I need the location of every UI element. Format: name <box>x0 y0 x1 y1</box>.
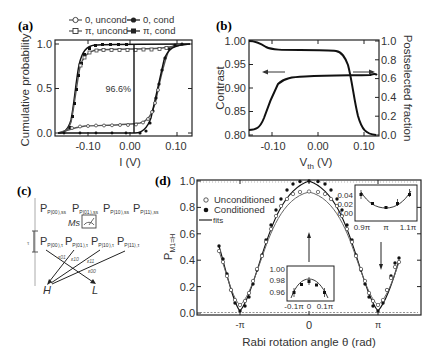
svg-text:0.1π: 0.1π <box>317 302 334 311</box>
svg-text:1.0: 1.0 <box>37 38 52 50</box>
tau-populations: PP|00⟩,τ PP|01⟩,τ PP|10⟩,τ PP|11⟩,τ <box>40 235 140 248</box>
svg-text:0.00: 0.00 <box>119 140 140 152</box>
up-arrow-icon <box>307 232 311 238</box>
svg-text:π: π <box>375 320 381 330</box>
svg-text:1.0: 1.0 <box>381 35 396 47</box>
svg-text:0.00: 0.00 <box>337 209 353 218</box>
svg-text:PP|01⟩,τ: PP|01⟩,τ <box>65 235 88 248</box>
open-square-marker-icon <box>73 29 78 34</box>
panel-d: (d) 1.0 0.8 0.6 0.4 0.2 0.0 -π 0 π Rabi … <box>155 173 421 348</box>
svg-text:π, uncond: π, uncond <box>85 25 128 36</box>
panel-a-xlabel: I (V) <box>119 156 141 168</box>
svg-text:ε01: ε01 <box>58 254 66 260</box>
svg-text:-0.10: -0.10 <box>260 140 285 152</box>
measurement-label: Ms <box>68 218 80 228</box>
svg-text:PP|01⟩,ss: PP|01⟩,ss <box>72 202 98 215</box>
svg-text:0.9π: 0.9π <box>354 223 371 232</box>
panel-b-label: (b) <box>216 18 232 33</box>
svg-text:-π: -π <box>235 320 244 330</box>
svg-text:0.0: 0.0 <box>37 127 52 139</box>
svg-text:0, cond: 0, cond <box>143 14 174 25</box>
svg-text:0.6: 0.6 <box>381 72 396 84</box>
svg-text:0.80: 0.80 <box>225 129 246 141</box>
svg-text:π: π <box>383 223 389 232</box>
panel-a-ylabel: Cumulative probability <box>19 33 31 146</box>
left-axis-arrow-icon <box>262 70 285 75</box>
panel-d-legend: Unconditioned Conditioned fits <box>199 194 275 225</box>
open-circle-marker-icon <box>204 198 208 202</box>
svg-text:0.4: 0.4 <box>180 254 195 266</box>
svg-text:0.5: 0.5 <box>37 82 52 94</box>
svg-text:PP|10⟩,τ: PP|10⟩,τ <box>91 235 114 248</box>
svg-text:0.0: 0.0 <box>381 129 396 141</box>
steady-state-populations: PP|00⟩,ss PP|01⟩,ss PP|10⟩,ss PP|11⟩,ss <box>40 202 159 215</box>
svg-text:PP|11⟩,τ: PP|11⟩,τ <box>117 235 140 248</box>
outcome-low: L <box>92 284 98 296</box>
svg-text:π, cond: π, cond <box>143 25 175 36</box>
panel-a-legend: 0, uncond 0, cond π, uncond π, cond <box>69 14 175 36</box>
figure-canvas: (a) 0, uncond 0, cond π, uncond π, cond … <box>0 0 438 362</box>
panel-b-ylabel-left: Contrast <box>214 65 226 109</box>
svg-text:0.02: 0.02 <box>337 200 353 209</box>
fidelity-annotation: 96.6% <box>105 84 131 94</box>
meter-icon <box>82 215 96 228</box>
inset-near-zero: 1.00 0.98 0.96 -0.1π 0 0.1π <box>269 265 334 311</box>
postselected-fraction-curve <box>249 41 376 135</box>
panel-c-label: (c) <box>17 183 31 198</box>
svg-text:0.90: 0.90 <box>225 82 246 94</box>
svg-text:0.96: 0.96 <box>269 288 285 297</box>
svg-text:ε00: ε00 <box>88 268 96 274</box>
svg-text:PP|00⟩,τ: PP|00⟩,τ <box>40 235 63 248</box>
outcome-high: H <box>43 284 51 296</box>
filled-circle-marker-icon <box>204 208 209 213</box>
svg-text:1.0: 1.0 <box>180 175 195 187</box>
panel-a-label: (a) <box>18 18 33 33</box>
filled-square-marker-icon <box>131 29 136 34</box>
svg-text:0.00: 0.00 <box>307 140 328 152</box>
inset-near-pi: 0.04 0.02 0.00 0.9π π 1.1π <box>337 185 417 232</box>
svg-text:0.10: 0.10 <box>353 140 374 152</box>
down-arrow-icon <box>379 264 383 270</box>
svg-text:0, uncond: 0, uncond <box>85 14 127 25</box>
panel-d-label: (d) <box>155 173 171 188</box>
svg-text:0.6: 0.6 <box>180 228 195 240</box>
svg-text:τ: τ <box>27 240 30 246</box>
panel-b-xlabel: Vth (V) <box>300 156 333 171</box>
panel-b-ylabel-right: Postselected fraction <box>402 35 414 142</box>
svg-text:0.4: 0.4 <box>381 91 396 103</box>
panel-d-ylabel: PM1=H <box>162 234 176 261</box>
panel-b: (b) 1.00 0.95 0.90 0.85 0.80 1.0 0.8 0.6… <box>214 18 414 171</box>
svg-text:0: 0 <box>307 302 312 311</box>
svg-text:1.00: 1.00 <box>225 35 246 47</box>
panel-c: (c) τ PP|00⟩,ss PP|01⟩,ss PP|10⟩,ss PP|1… <box>17 183 159 296</box>
svg-text:0.2: 0.2 <box>180 281 195 293</box>
svg-text:0: 0 <box>306 319 312 331</box>
inset-pointer-arrows <box>307 232 383 270</box>
svg-text:PP|00⟩,ss: PP|00⟩,ss <box>40 202 66 215</box>
svg-text:0.0: 0.0 <box>180 307 195 319</box>
panel-d-xlabel: Rabi rotation angle θ (rad) <box>242 336 376 348</box>
svg-text:1.1π: 1.1π <box>400 223 417 232</box>
svg-text:-0.1π: -0.1π <box>284 302 304 311</box>
contrast-curve <box>249 74 377 130</box>
svg-text:ε10: ε10 <box>71 256 79 262</box>
svg-text:0.95: 0.95 <box>225 58 246 70</box>
open-circle-marker-icon <box>73 17 78 22</box>
svg-text:PP|10⟩,ss: PP|10⟩,ss <box>103 202 129 215</box>
svg-text:0.2: 0.2 <box>381 110 396 122</box>
svg-text:Conditioned: Conditioned <box>214 204 265 215</box>
svg-text:0.8: 0.8 <box>180 201 195 213</box>
svg-text:0.85: 0.85 <box>225 105 246 117</box>
svg-text:0.04: 0.04 <box>337 191 353 200</box>
svg-text:ε11: ε11 <box>87 258 95 264</box>
svg-text:-0.10: -0.10 <box>75 140 100 152</box>
filled-circle-marker-icon <box>131 17 136 22</box>
panel-a: (a) 0, uncond 0, cond π, uncond π, cond … <box>18 14 192 168</box>
svg-text:PP|11⟩,ss: PP|11⟩,ss <box>133 202 159 215</box>
svg-text:0.10: 0.10 <box>165 140 186 152</box>
svg-text:1.00: 1.00 <box>269 265 285 274</box>
svg-text:0.8: 0.8 <box>381 54 396 66</box>
svg-text:fits: fits <box>213 216 223 225</box>
svg-text:0.98: 0.98 <box>269 276 285 285</box>
